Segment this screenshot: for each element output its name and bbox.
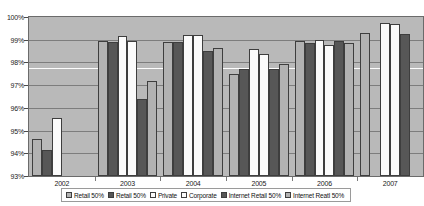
legend-label: Corporate — [189, 192, 217, 199]
bar — [315, 40, 325, 176]
bar — [108, 42, 118, 176]
bar — [295, 41, 305, 176]
legend-label: Private — [158, 192, 177, 199]
bar — [279, 64, 289, 176]
x-axis-tick-label: 2005 — [251, 180, 266, 187]
x-axis-tick-mark — [160, 177, 161, 181]
bar — [213, 48, 223, 176]
legend-swatch-icon — [150, 192, 156, 198]
legend-label: Internet Reatl 50% — [293, 192, 344, 199]
bar-group — [357, 17, 423, 176]
legend-item: Internet Reatl 50% — [285, 192, 344, 199]
bar — [400, 34, 410, 176]
legend-swatch-icon — [181, 192, 187, 198]
x-axis-tick-label: 2004 — [186, 180, 201, 187]
y-axis-tick-label: 96% — [11, 104, 24, 111]
x-axis-tick-mark — [357, 177, 358, 181]
legend-swatch-icon — [285, 192, 291, 198]
bar — [52, 118, 62, 176]
x-axis-tick-label: 2003 — [120, 180, 135, 187]
bar — [239, 69, 249, 176]
chart-legend: Retail 50%Retail 50%PrivateCorporateInte… — [61, 188, 351, 202]
legend-swatch-icon — [66, 192, 72, 198]
y-axis: 100%99%98%97%96%95%94%93% — [0, 0, 28, 183]
bar — [249, 49, 259, 176]
legend-swatch-icon — [221, 192, 227, 198]
bar — [380, 23, 390, 176]
x-axis-tick-label: 2002 — [54, 180, 69, 187]
bar — [269, 69, 279, 176]
y-axis-tick-label: 100% — [7, 14, 24, 21]
legend-item: Retail 50% — [66, 192, 104, 199]
bar — [163, 42, 173, 176]
legend-item: Retail 50% — [108, 192, 146, 199]
y-axis-tick-label: 97% — [11, 82, 24, 89]
x-axis-tick-mark — [95, 177, 96, 181]
x-axis-tick-mark — [292, 177, 293, 181]
bar — [98, 41, 108, 176]
legend-label: Retail 50% — [116, 192, 146, 199]
bar — [203, 51, 213, 176]
legend-swatch-icon — [108, 192, 114, 198]
y-axis-tick-label: 99% — [11, 36, 24, 43]
bar — [390, 24, 400, 176]
bar — [118, 36, 128, 176]
x-axis-tick-mark — [226, 177, 227, 181]
bar — [173, 42, 183, 176]
bar — [305, 43, 315, 176]
y-axis-tick-label: 93% — [11, 173, 24, 180]
bar — [259, 54, 269, 176]
bar — [324, 45, 334, 176]
bar-group — [95, 17, 161, 176]
bar — [127, 41, 137, 176]
x-axis-tick-label: 2006 — [317, 180, 332, 187]
y-axis-tick-label: 95% — [11, 127, 24, 134]
legend-label: Retail 50% — [74, 192, 104, 199]
legend-item: Private — [150, 192, 177, 199]
bar-group — [226, 17, 292, 176]
bar — [183, 35, 193, 176]
bar — [360, 33, 370, 176]
bar — [137, 99, 147, 176]
y-axis-tick-label: 94% — [11, 150, 24, 157]
legend-item: Corporate — [181, 192, 217, 199]
x-axis-tick-label: 2007 — [383, 180, 398, 187]
legend-label: Internet Retail 50% — [229, 192, 281, 199]
bar — [334, 41, 344, 176]
bar — [229, 74, 239, 176]
y-axis-tick-label: 98% — [11, 59, 24, 66]
bar-chart: 100%99%98%97%96%95%94%93% 20022003200420… — [0, 0, 424, 206]
bars-layer — [29, 17, 423, 176]
bar — [193, 35, 203, 176]
bar — [344, 43, 354, 176]
bar-group — [29, 17, 95, 176]
bar — [42, 150, 52, 176]
bar-group — [160, 17, 226, 176]
bar-group — [292, 17, 358, 176]
legend-item: Internet Retail 50% — [221, 192, 281, 199]
bar — [32, 139, 42, 176]
bar — [147, 81, 157, 176]
